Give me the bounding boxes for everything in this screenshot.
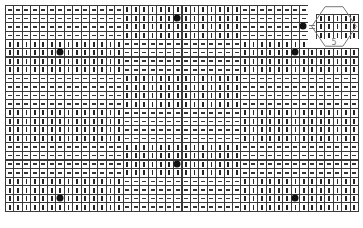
game-board: 5: [5, 5, 358, 211]
hexagon-zone-outline: [5, 5, 358, 211]
hexagon-zone-label: 5: [331, 38, 336, 47]
